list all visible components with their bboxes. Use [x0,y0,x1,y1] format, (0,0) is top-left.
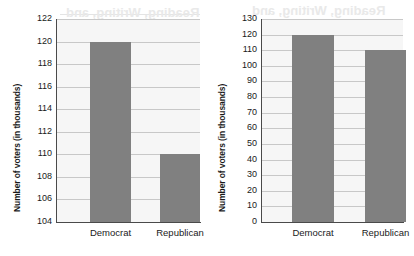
y-tick-label: 122 [18,13,52,23]
bar-democrat [90,42,131,222]
x-category-label: Democrat [273,227,353,238]
x-category-label: Republican [346,227,414,238]
x-axis-line-right [261,222,404,223]
y-tick-label: 30 [223,169,257,179]
y-tick-label: 112 [18,126,52,136]
y-tick-label: 120 [18,36,52,46]
y-tick-label: 100 [223,60,257,70]
y-tick-label: 10 [223,200,257,210]
y-tick-label: 0 [223,216,257,226]
y-tick-label: 70 [223,107,257,117]
y-tick-label: 40 [223,154,257,164]
y-tick-label: 20 [223,185,257,195]
gridline [57,19,200,20]
y-tick-label: 116 [18,81,52,91]
bar-republican [160,154,200,222]
bar-republican [365,50,406,222]
y-axis-line-left [56,19,57,223]
y-tick-label: 60 [223,122,257,132]
y-tick-label: 104 [18,216,52,226]
y-tick-label: 110 [223,44,257,54]
y-tick-label: 120 [223,29,257,39]
y-axis-line-right [261,19,262,223]
y-tick-label: 90 [223,75,257,85]
y-tick-label: 50 [223,138,257,148]
y-tick-label: 106 [18,193,52,203]
gridline [262,19,403,20]
y-tick-label: 110 [18,148,52,158]
y-tick-label: 80 [223,91,257,101]
y-tick-label: 114 [18,103,52,113]
bar-chart-right: Number of voters (in thousands) 01020304… [205,0,409,256]
y-tick-label: 108 [18,171,52,181]
x-category-label: Democrat [71,227,151,238]
x-axis-line-left [56,222,201,223]
bar-democrat [292,35,334,222]
bar-chart-left: Number of voters (in thousands) 10410610… [0,0,205,256]
y-tick-label: 130 [223,13,257,23]
y-tick-label: 118 [18,58,52,68]
